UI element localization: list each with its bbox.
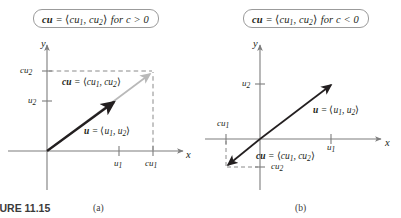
figure-number-label: FIGURE 11.15 <box>0 202 50 214</box>
panel-b-x-tick-label-u1: u1 <box>327 143 335 153</box>
panel-b-plot <box>200 0 400 218</box>
panel-a-x-tick-label-u1: u1 <box>114 159 122 169</box>
panel-b-y-tick-label-u2: u2 <box>242 79 250 89</box>
panel-b-vector-u-label: u = ⟨u1, u2⟩ <box>313 106 359 116</box>
panel-a-y-axis-label: y <box>41 39 46 50</box>
panel-a-plot <box>0 0 200 218</box>
panel-a: cu = ⟨cu1, cu2⟩ for c > 0 <box>0 0 200 218</box>
panel-b-y-axis-label: y <box>253 39 258 50</box>
figure-11-15: cu = ⟨cu1, cu2⟩ for c > 0 <box>0 0 401 218</box>
panel-b: cu = ⟨cu1, cu2⟩ for c < 0 <box>200 0 400 218</box>
panel-a-caption: (a) <box>93 203 104 213</box>
panel-b-caption: (b) <box>295 203 306 213</box>
panel-b-x-axis-label: x <box>385 138 390 149</box>
panel-a-y-tick-label-cu2: cu2 <box>20 66 32 76</box>
panel-a-x-tick-label-cu1: cu1 <box>145 159 157 169</box>
panel-a-x-axis-label: x <box>186 150 191 161</box>
panel-b-y-tick-label-cu2: cu2 <box>271 162 283 172</box>
panel-a-vector-cu-label: cu = ⟨cu1, cu2⟩ <box>62 78 121 88</box>
panel-b-x-tick-label-cu1: cu1 <box>217 119 229 129</box>
panel-a-y-tick-label-u2: u2 <box>28 96 36 106</box>
panel-a-vector-u-label: u = ⟨u1, u2⟩ <box>84 127 130 137</box>
panel-b-vector-cu-label: cu = ⟨cu1, cu2⟩ <box>256 152 315 162</box>
